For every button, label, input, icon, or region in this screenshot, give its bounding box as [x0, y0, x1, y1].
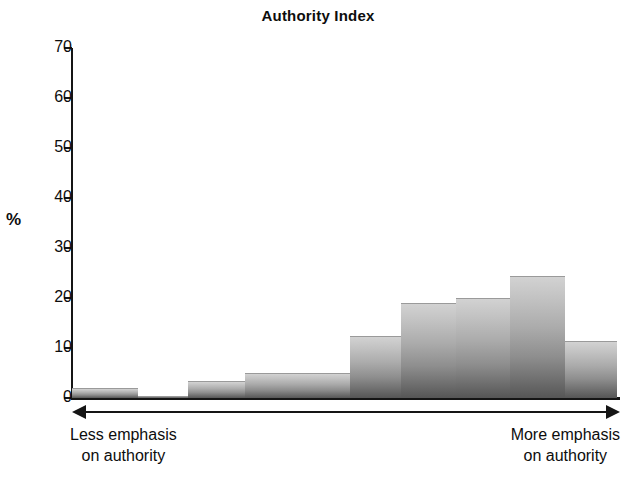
arrow-left-icon: [72, 405, 86, 419]
x-axis-caption-right: More emphasis on authority: [511, 424, 620, 466]
bar-6: [401, 303, 456, 398]
bar-3: [188, 381, 245, 399]
bar-1: [72, 388, 138, 398]
x-axis-caption-right-line2: on authority: [511, 445, 620, 466]
bar-4: [245, 373, 350, 398]
bar-5: [350, 336, 401, 399]
arrow-right-icon: [606, 405, 620, 419]
x-axis-caption-left: Less emphasis on authority: [70, 424, 177, 466]
x-axis-caption-right-line1: More emphasis: [511, 426, 620, 443]
bar-8: [510, 276, 565, 399]
x-axis-caption-left-line2: on authority: [70, 445, 177, 466]
chart-page: Authority Index % 706050403020100 Less e…: [0, 0, 636, 478]
bar-series: [0, 0, 636, 478]
bar-7: [456, 298, 510, 398]
bar-9: [565, 341, 617, 399]
x-axis-arrow-line: [84, 411, 617, 413]
bar-2: [138, 396, 188, 398]
plot-area: % 706050403020100 Less emphasis on autho…: [0, 0, 636, 478]
x-axis-caption-left-line1: Less emphasis: [70, 426, 177, 443]
